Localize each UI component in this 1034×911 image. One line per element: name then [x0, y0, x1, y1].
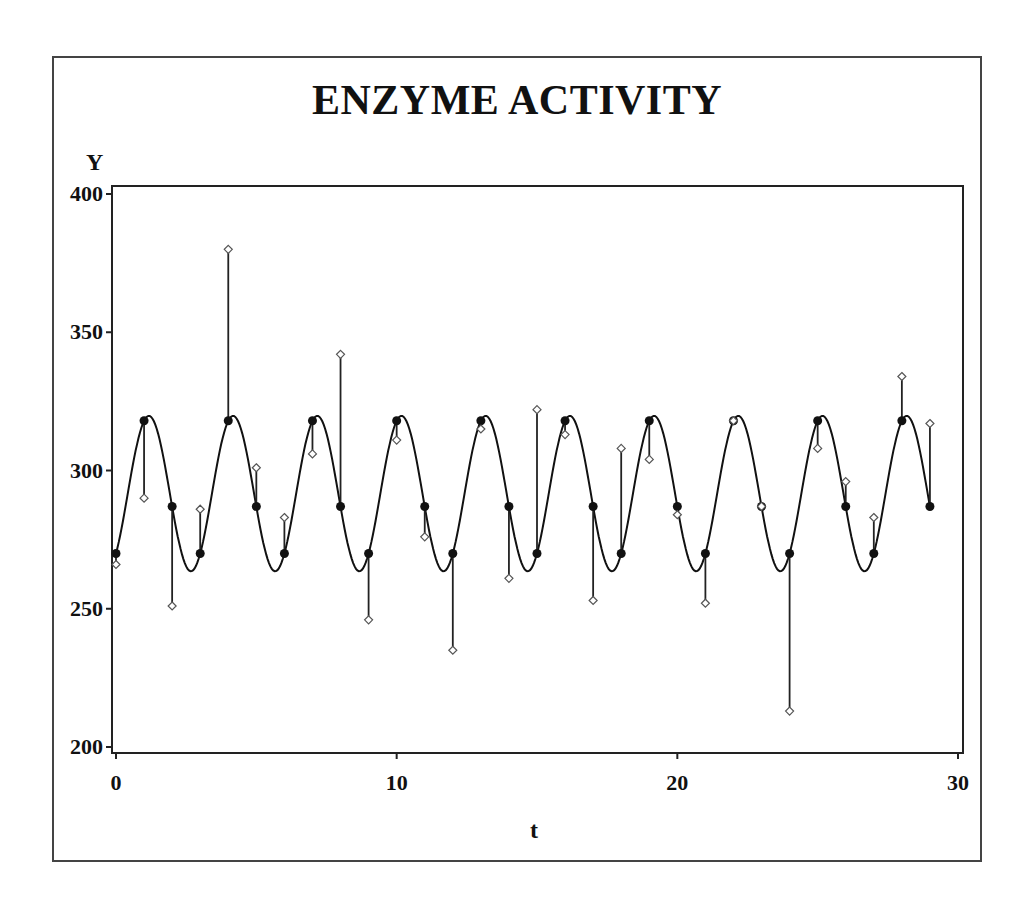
fitted-point [897, 416, 906, 425]
fitted-point [785, 549, 794, 558]
observed-point [898, 372, 906, 380]
observed-point [701, 599, 709, 607]
observed-point [645, 455, 653, 463]
x-tick-label: 0 [111, 770, 122, 795]
fitted-point [140, 416, 149, 425]
y-tick-label: 200 [70, 734, 103, 759]
fitted-point [112, 549, 121, 558]
fitted-point [336, 502, 345, 511]
observed-point [308, 450, 316, 458]
observed-point [449, 646, 457, 654]
fitted-point [869, 549, 878, 558]
fitted-point [533, 549, 542, 558]
fitted-point [392, 416, 401, 425]
fitted-point [280, 549, 289, 558]
observed-point [393, 436, 401, 444]
observed-point [168, 602, 176, 610]
fitted-point [701, 549, 710, 558]
fitted-point [196, 549, 205, 558]
fitted-point [589, 502, 598, 511]
fitted-curve [116, 416, 930, 571]
y-axis-label: Y [86, 149, 103, 175]
fitted-points [112, 416, 935, 558]
fitted-point [617, 549, 626, 558]
fitted-point [813, 416, 822, 425]
fitted-point [224, 416, 233, 425]
y-tick-label: 400 [70, 181, 103, 206]
observed-point [617, 444, 625, 452]
fitted-point [308, 416, 317, 425]
fitted-point [420, 502, 429, 511]
observed-point [870, 514, 878, 522]
x-tick-label: 30 [947, 770, 969, 795]
x-axis: 0102030 [111, 753, 970, 795]
observed-point [505, 574, 513, 582]
fitted-point [364, 549, 373, 558]
observed-point [224, 245, 232, 253]
x-tick-label: 10 [386, 770, 408, 795]
fitted-point [673, 502, 682, 511]
x-tick-label: 20 [666, 770, 688, 795]
fitted-point [168, 502, 177, 511]
observed-point [589, 596, 597, 604]
observed-point [786, 707, 794, 715]
fitted-point [645, 416, 654, 425]
observed-point [365, 616, 373, 624]
observed-point [112, 561, 120, 569]
observed-point [140, 494, 148, 502]
fitted-point [841, 502, 850, 511]
observed-point [814, 444, 822, 452]
residual-lines [116, 249, 930, 711]
observed-points [112, 245, 934, 715]
observed-point [421, 533, 429, 541]
fitted-point [504, 502, 513, 511]
observed-point [533, 406, 541, 414]
observed-point [252, 464, 260, 472]
x-axis-label: t [530, 817, 538, 843]
observed-point [842, 478, 850, 486]
y-tick-label: 350 [70, 319, 103, 344]
fitted-point [561, 416, 570, 425]
plot-area: 200250300350400 0102030 Y t [0, 0, 1034, 911]
fitted-point [925, 502, 934, 511]
observed-point [926, 419, 934, 427]
y-tick-label: 300 [70, 458, 103, 483]
fitted-point [252, 502, 261, 511]
observed-point [196, 505, 204, 513]
fitted-point [476, 416, 485, 425]
y-axis: 200250300350400 [70, 181, 112, 759]
fitted-point [448, 549, 457, 558]
observed-point [337, 350, 345, 358]
y-tick-label: 250 [70, 596, 103, 621]
observed-point [561, 431, 569, 439]
observed-point [280, 514, 288, 522]
